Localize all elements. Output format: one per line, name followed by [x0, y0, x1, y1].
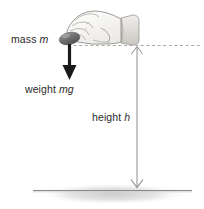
- diagram-canvas: [0, 0, 204, 209]
- ground-shadow-ellipse: [35, 183, 191, 205]
- weight-force-down-arrow: [63, 44, 77, 80]
- label-weight-text: weight: [25, 83, 56, 95]
- label-height-symbol: h: [124, 111, 130, 123]
- label-weight-symbol: mg: [59, 83, 74, 95]
- label-height-text: height: [92, 111, 121, 123]
- label-mass-symbol: m: [40, 33, 49, 45]
- label-height: height h: [92, 112, 130, 123]
- hand-holding-ball-illustration: [58, 11, 139, 47]
- label-mass-text: mass: [11, 33, 37, 45]
- label-mass: mass m: [11, 34, 48, 45]
- label-weight: weight mg: [25, 84, 74, 95]
- physics-diagram-falling-mass: mass m weight mg height h: [0, 0, 204, 209]
- height-double-headed-arrow: [131, 47, 143, 188]
